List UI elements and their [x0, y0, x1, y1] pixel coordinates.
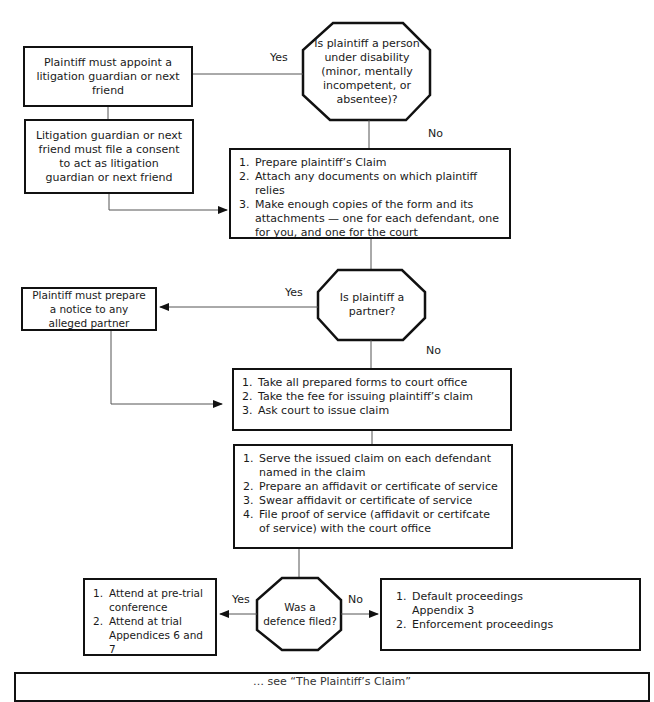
item-number: 2. — [93, 614, 109, 656]
item-text: Swear affidavit or certificate of servic… — [259, 494, 503, 508]
box-appoint-guardian-text: Plaintiff must appoint a litigation guar… — [33, 56, 183, 98]
item-text: Take all prepared forms to court office — [258, 376, 502, 390]
item-text: Make enough copies of the form and its a… — [255, 198, 501, 240]
box-serve-claim: 1.Serve the issued claim on each defenda… — [233, 444, 513, 549]
list-item: 2.Attach any documents on which plaintif… — [239, 170, 501, 198]
item-number: 1. — [239, 156, 255, 170]
box-court-office: 1.Take all prepared forms to court offic… — [232, 368, 512, 431]
box-defence-no: 1.Default proceedings Appendix 3 2.Enfor… — [380, 578, 641, 651]
list-item: 3.Ask court to issue claim — [242, 404, 502, 418]
box-defence-yes: 1.Attend at pre-trial conference 2.Atten… — [83, 578, 217, 656]
list-item: 1.Default proceedings Appendix 3 — [396, 590, 526, 618]
box-file-consent-text: Litigation guardian or next friend must … — [34, 129, 184, 185]
item-number: 2. — [239, 170, 255, 198]
list-item: 4.File proof of service (affidavit or ce… — [243, 508, 503, 536]
item-number: 1. — [242, 376, 258, 390]
item-number: 3. — [243, 494, 259, 508]
item-number: 1. — [396, 590, 412, 618]
item-text: Enforcement proceedings — [412, 618, 553, 632]
item-text: Default proceedings Appendix 3 — [412, 590, 526, 618]
list-item: 3.Swear affidavit or certificate of serv… — [243, 494, 503, 508]
footer-note-text: … see “The Plaintiff’s Claim” — [253, 675, 411, 688]
list-item: 3.Make enough copies of the form and its… — [239, 198, 501, 240]
item-number: 3. — [242, 404, 258, 418]
item-text: Attend at trial Appendices 6 and 7 — [109, 614, 207, 656]
item-text: Attach any documents on which plaintiff … — [255, 170, 501, 198]
item-text: File proof of service (affidavit or cert… — [259, 508, 503, 536]
item-number: 1. — [243, 452, 259, 480]
list-item: 2.Attend at trial Appendices 6 and 7 — [93, 614, 207, 656]
list-item: 1.Serve the issued claim on each defenda… — [243, 452, 503, 480]
box-prepare-claim: 1.Prepare plaintiff’s Claim 2.Attach any… — [229, 148, 511, 239]
decision-disability-no-label: No — [428, 128, 443, 140]
decision-partner-no-label: No — [426, 345, 441, 357]
list-item: 2.Take the fee for issuing plaintiff’s c… — [242, 390, 502, 404]
item-number: 2. — [243, 480, 259, 494]
item-number: 2. — [242, 390, 258, 404]
box-appoint-guardian: Plaintiff must appoint a litigation guar… — [23, 46, 193, 107]
item-number: 2. — [396, 618, 412, 632]
box-file-consent: Litigation guardian or next friend must … — [24, 119, 194, 194]
decision-disability-yes-label: Yes — [270, 52, 288, 64]
decision-defence-text: Was a defence filed? — [262, 584, 338, 644]
item-text: Prepare plaintiff’s Claim — [255, 156, 501, 170]
decision-defence-yes-label: Yes — [232, 594, 250, 606]
item-number: 3. — [239, 198, 255, 240]
list-item: 1.Prepare plaintiff’s Claim — [239, 156, 501, 170]
box-notice-partner: Plaintiff must prepare a notice to any a… — [21, 287, 157, 331]
item-text: Take the fee for issuing plaintiff’s cla… — [258, 390, 502, 404]
list-item: 1.Take all prepared forms to court offic… — [242, 376, 502, 390]
item-text: Prepare an affidavit or certificate of s… — [259, 480, 503, 494]
decision-defence-no-label: No — [348, 594, 363, 606]
item-number: 4. — [243, 508, 259, 536]
item-text: Serve the issued claim on each defendant… — [259, 452, 503, 480]
item-number: 1. — [93, 586, 109, 614]
list-item: 2.Enforcement proceedings — [396, 618, 526, 632]
box-notice-partner-text: Plaintiff must prepare a notice to any a… — [31, 288, 147, 330]
item-text: Attend at pre-trial conference — [109, 586, 207, 614]
list-item: 1.Attend at pre-trial conference — [93, 586, 207, 614]
footer-note-box: … see “The Plaintiff’s Claim” — [14, 672, 650, 702]
list-item: 2.Prepare an affidavit or certificate of… — [243, 480, 503, 494]
item-text: Ask court to issue claim — [258, 404, 502, 418]
decision-partner-text: Is plaintiff a partner? — [322, 274, 422, 336]
decision-partner-yes-label: Yes — [285, 287, 303, 299]
decision-disability-text: Is plaintiff a person under disability (… — [308, 27, 426, 117]
